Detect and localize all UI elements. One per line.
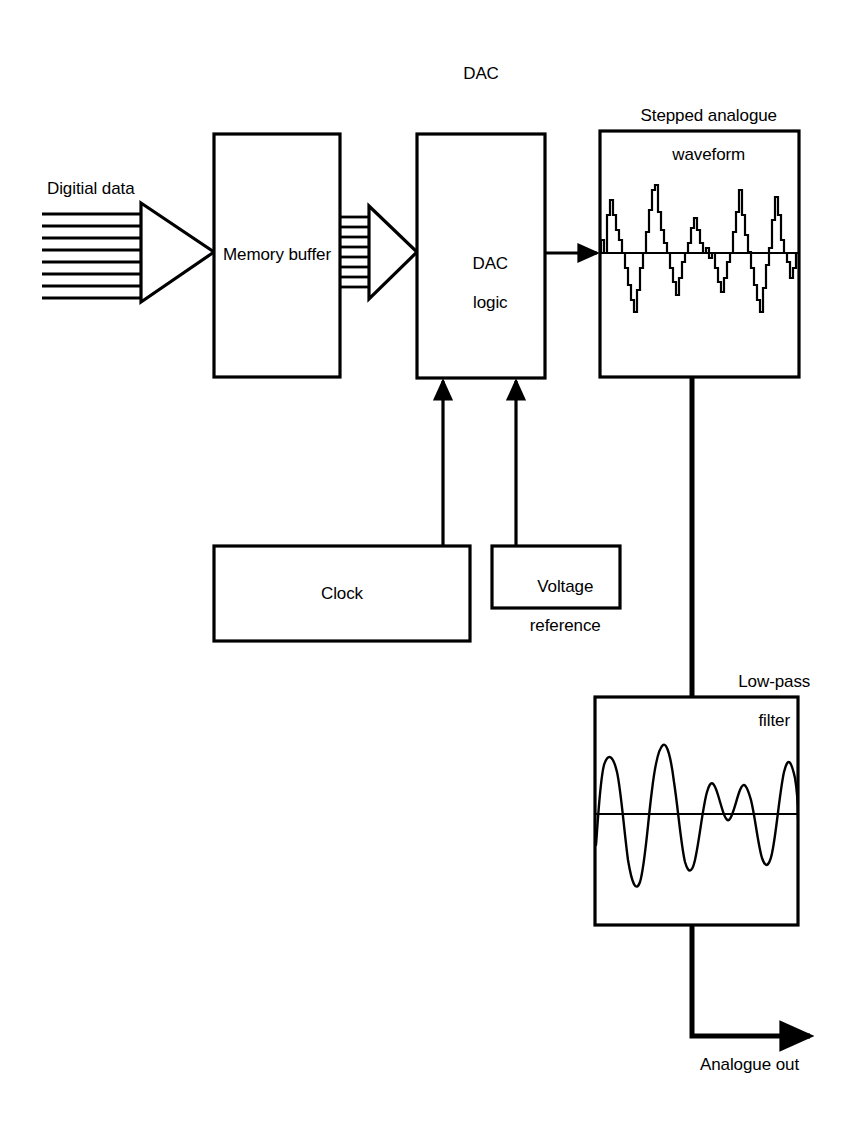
dac-input-buffer-triangle <box>369 206 417 299</box>
buffer-output-bus <box>340 217 369 287</box>
memory-buffer-label: Memory buffer <box>214 245 340 265</box>
digital-data-label: Digitial data <box>47 179 135 199</box>
clock-label: Clock <box>214 584 470 604</box>
dac-logic-label-line1: DAC <box>472 254 508 273</box>
analogue-out-wire <box>692 925 810 1036</box>
dac-logic-label-line2: logic <box>473 293 507 312</box>
input-buffer-triangle <box>141 203 214 302</box>
analogue-out-label: Analogue out <box>700 1055 799 1075</box>
voltage-reference-label-line2: reference <box>530 616 601 635</box>
stepped-waveform-label-line2: waveform <box>672 145 745 164</box>
stepped-waveform-label-line1: Stepped analogue <box>641 106 777 125</box>
dac-title-label: DAC <box>417 64 545 84</box>
dac-block-diagram: Digitial data Memory buffer DAC DAC logi… <box>0 0 844 1125</box>
lowpass-filter-label-line2: filter <box>758 711 790 730</box>
stepped-waveform-label: Stepped analogue waveform <box>600 86 799 185</box>
lowpass-filter-label: Low-pass filter <box>700 652 830 751</box>
voltage-reference-label: Voltage reference <box>492 557 620 656</box>
lowpass-filter-label-line1: Low-pass <box>738 672 810 691</box>
voltage-reference-label-line1: Voltage <box>537 577 593 596</box>
digital-data-bus <box>42 214 141 298</box>
dac-logic-label: DAC logic <box>417 234 545 333</box>
